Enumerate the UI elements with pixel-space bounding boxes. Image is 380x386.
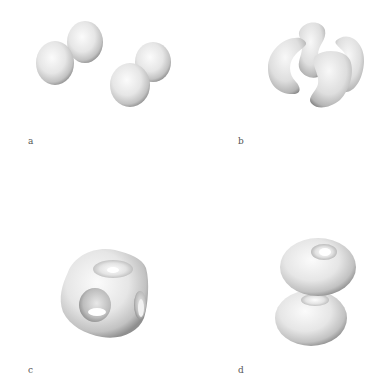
- panel-d-shape: [275, 238, 356, 346]
- panel-a-label: a: [28, 137, 33, 146]
- isosurface-renderings: [0, 0, 380, 386]
- panel-d-label: d: [238, 366, 244, 375]
- panel-a-shape: [36, 21, 171, 107]
- figure: a b c d: [0, 0, 380, 386]
- panel-c-shape: [61, 249, 148, 338]
- panel-b-label: b: [238, 137, 244, 146]
- panel-b-shape: [268, 23, 364, 108]
- panel-c-label: c: [28, 366, 33, 375]
